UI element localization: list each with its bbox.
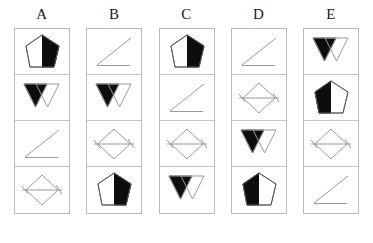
shape-sequence-grid: A B C	[0, 0, 373, 243]
diamond-with-line-icon	[20, 169, 64, 211]
pentagon-half-black-icon	[309, 77, 353, 119]
column-box	[14, 28, 70, 214]
cell-a-3	[15, 121, 69, 167]
diamond-with-line-icon	[237, 77, 281, 119]
column-header-b: B	[109, 0, 120, 28]
cell-c-4	[160, 167, 214, 213]
diagonal-line-icon	[92, 31, 136, 73]
cell-c-3	[160, 121, 214, 167]
cell-a-1	[15, 29, 69, 75]
column-header-a: A	[36, 0, 47, 28]
column-d: D	[231, 0, 287, 243]
diagonal-line-icon	[237, 31, 281, 73]
column-a: A	[14, 0, 70, 243]
diagonal-line-icon	[309, 169, 353, 211]
cell-a-4	[15, 167, 69, 213]
column-c: C	[159, 0, 215, 243]
double-triangle-left-black-icon	[20, 77, 64, 119]
diagonal-line-icon	[20, 123, 64, 165]
column-header-d: D	[253, 0, 264, 28]
double-triangle-left-black-icon	[237, 123, 281, 165]
cell-e-2	[304, 75, 358, 121]
diamond-with-line-icon	[92, 123, 136, 165]
column-box	[231, 28, 287, 214]
double-triangle-left-black-icon	[92, 77, 136, 119]
pentagon-half-black-icon	[20, 31, 64, 73]
pentagon-half-black-icon	[92, 169, 136, 211]
cell-e-4	[304, 167, 358, 213]
column-box	[159, 28, 215, 214]
cell-e-3	[304, 121, 358, 167]
double-triangle-left-black-icon	[165, 169, 209, 211]
cell-d-3	[232, 121, 286, 167]
cell-c-1	[160, 29, 214, 75]
cell-e-1	[304, 29, 358, 75]
double-triangle-left-black-icon	[309, 31, 353, 73]
cell-d-4	[232, 167, 286, 213]
column-b: B	[86, 0, 142, 243]
column-box	[303, 28, 359, 214]
column-e: E	[303, 0, 359, 243]
diagonal-line-icon	[165, 77, 209, 119]
cell-a-2	[15, 75, 69, 121]
pentagon-half-black-icon	[165, 31, 209, 73]
cell-d-1	[232, 29, 286, 75]
cell-b-3	[87, 121, 141, 167]
column-header-c: C	[181, 0, 192, 28]
cell-b-2	[87, 75, 141, 121]
cell-c-2	[160, 75, 214, 121]
cell-b-1	[87, 29, 141, 75]
cell-b-4	[87, 167, 141, 213]
column-header-e: E	[326, 0, 336, 28]
diamond-with-line-icon	[309, 123, 353, 165]
cell-d-2	[232, 75, 286, 121]
diamond-with-line-icon	[165, 123, 209, 165]
column-box	[86, 28, 142, 214]
pentagon-half-black-icon	[237, 169, 281, 211]
